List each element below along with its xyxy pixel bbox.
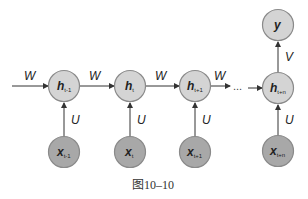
- w-label-0: W: [24, 69, 37, 83]
- input-node-t-1: xt-1: [49, 137, 80, 168]
- u-label-2: U: [202, 113, 211, 127]
- v-label: V: [285, 50, 294, 64]
- output-node-y: y: [263, 10, 294, 41]
- rnn-diagram: W W W W ... U U U U V ht-1 ht ht+1 ht+n …: [0, 0, 308, 199]
- hidden-node-t+1: ht+1: [180, 71, 211, 102]
- svg-text:y: y: [273, 18, 282, 32]
- figure-caption: 图10–10: [132, 178, 174, 192]
- hidden-node-t+n: ht+n: [263, 73, 294, 104]
- w-label-2: W: [155, 69, 168, 83]
- input-node-t: xt: [115, 137, 146, 168]
- u-label-0: U: [71, 113, 80, 127]
- u-label-3: U: [285, 113, 294, 127]
- w-label-3: W: [214, 69, 227, 83]
- ellipsis: ...: [233, 80, 242, 92]
- w-label-1: W: [89, 69, 102, 83]
- hidden-node-t-1: ht-1: [49, 71, 80, 102]
- input-node-t+1: xt+1: [180, 137, 211, 168]
- input-node-t+n: xt+n: [263, 136, 294, 167]
- hidden-node-t: ht: [115, 71, 146, 102]
- u-label-1: U: [137, 113, 146, 127]
